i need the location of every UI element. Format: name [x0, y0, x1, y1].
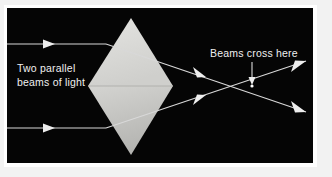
- lower-incoming-ray-arrowhead: [43, 124, 55, 133]
- lower-refracted-ray-end-arrowhead: [291, 61, 306, 73]
- upper-refracted-ray-arrowhead: [193, 67, 206, 78]
- diagram-figure: Two parallel beams of light Beams cross …: [0, 0, 332, 177]
- upper-incoming-ray-arrowhead: [43, 40, 55, 49]
- lower-refracted-ray-arrowhead: [193, 95, 206, 106]
- upper-refracted-ray-end-arrowhead: [291, 101, 306, 113]
- crossing-label: Beams cross here: [210, 47, 298, 59]
- left-label-line-1: Two parallel: [17, 62, 75, 74]
- prism-lower-half: [88, 86, 173, 155]
- left-label-line-2: beams of light: [17, 76, 85, 88]
- crossing-callout-arrowhead: [249, 77, 256, 85]
- diagram-canvas: Two parallel beams of light Beams cross …: [7, 8, 313, 163]
